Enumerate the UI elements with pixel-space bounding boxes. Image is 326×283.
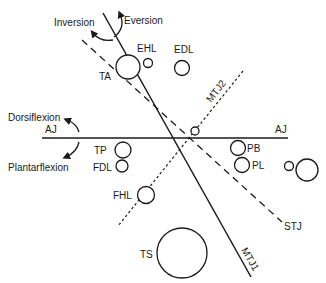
small-unlabeled-circle bbox=[285, 162, 294, 171]
eversion-label: Eversion bbox=[124, 15, 163, 26]
inversion-arrow-icon bbox=[93, 33, 113, 40]
dorsiflexion-arrow-icon bbox=[67, 120, 79, 132]
dorsiflexion-label: Dorsiflexion bbox=[8, 112, 60, 123]
fdl-label: FDL bbox=[93, 162, 112, 173]
mtj1-label: MTJ1 bbox=[239, 246, 261, 274]
fhl-tendon-circle bbox=[138, 187, 155, 204]
aj-label-right: AJ bbox=[275, 124, 287, 135]
inversion-label: Inversion bbox=[54, 17, 95, 28]
edl-label: EDL bbox=[174, 44, 194, 55]
large-unlabeled-circle bbox=[296, 159, 318, 181]
ta-label: TA bbox=[99, 71, 111, 82]
ts-tendon-circle bbox=[157, 228, 207, 278]
fhl-label: FHL bbox=[113, 190, 132, 201]
aj-label-left: AJ bbox=[45, 124, 57, 135]
ta-tendon-circle bbox=[116, 55, 140, 79]
ehl-label: EHL bbox=[137, 43, 157, 54]
pl-label: PL bbox=[252, 160, 265, 171]
tp-label: TP bbox=[94, 145, 107, 156]
tp-tendon-circle bbox=[115, 142, 131, 158]
ehl-tendon-circle bbox=[144, 59, 153, 68]
fdl-tendon-circle bbox=[116, 160, 128, 172]
pb-tendon-circle bbox=[231, 141, 246, 156]
pl-tendon-circle bbox=[235, 158, 250, 173]
stj-label: STJ bbox=[284, 221, 302, 232]
joint-axes-diagram: AJ AJ STJ MTJ2 MTJ1 Inversion Eversion D… bbox=[0, 0, 326, 283]
pb-label: PB bbox=[247, 143, 261, 154]
plantarflexion-arrow-icon bbox=[66, 142, 79, 157]
axes-intersection-marker bbox=[191, 127, 199, 135]
edl-tendon-circle bbox=[175, 61, 190, 76]
mtj2-label: MTJ2 bbox=[204, 77, 228, 104]
ts-label: TS bbox=[140, 249, 153, 260]
mtj2-axis-line bbox=[118, 71, 243, 226]
plantarflexion-label: Plantarflexion bbox=[8, 162, 69, 173]
